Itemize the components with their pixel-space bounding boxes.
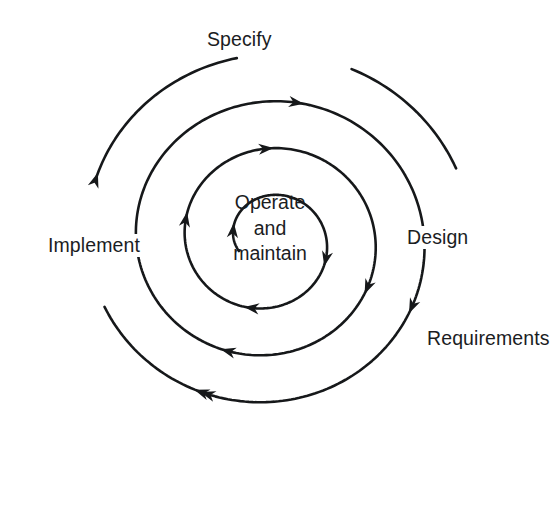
phase-label-implement: Implement — [45, 234, 143, 257]
phase-label-specify: Specify — [204, 28, 275, 51]
phase-label-operate-and-maintain: Operate and maintain — [222, 190, 318, 267]
phase-label-design: Design — [404, 226, 471, 249]
phase-label-requirements: Requirements — [424, 327, 553, 350]
spiral-diagram: Specify Design Requirements Implement Op… — [0, 0, 560, 519]
arrowhead-a13 — [88, 173, 99, 189]
